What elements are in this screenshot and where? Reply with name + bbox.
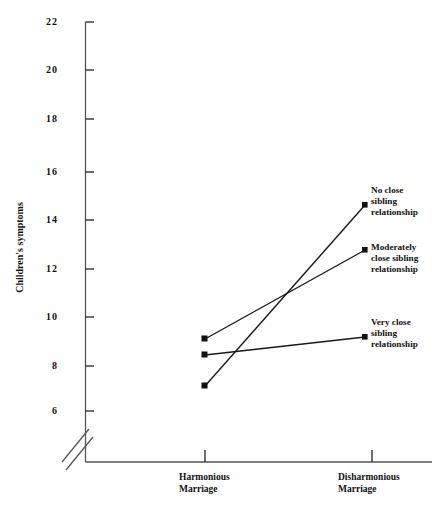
series-label-line2: close sibling xyxy=(371,253,418,263)
series-very-close-sibling xyxy=(202,334,368,358)
series-label-line3: relationship xyxy=(371,207,418,217)
series-label-line3: relationship xyxy=(371,339,418,349)
chart-figure: Children's symptoms 22 20 18 16 14 12 10… xyxy=(0,0,446,505)
axis-break-slash-1 xyxy=(66,437,93,470)
series-no-close-sibling xyxy=(202,202,368,389)
data-point-marker xyxy=(202,352,208,358)
data-point-marker xyxy=(362,334,368,340)
y-tick-label-14: 14 xyxy=(28,215,58,225)
series-label-line1: Moderately xyxy=(371,242,416,252)
data-point-marker xyxy=(202,383,208,389)
series-label-line1: Very close xyxy=(371,317,411,327)
series-label-moderately-close-sibling: Moderately close sibling relationship xyxy=(371,242,418,276)
y-tick-label-20: 20 xyxy=(28,65,58,75)
x-tick-label-harmonious-line2: Marriage xyxy=(179,484,218,494)
x-tick-label-harmonious-line1: Harmonious xyxy=(179,472,230,482)
x-tick-label-disharmonious-line2: Marriage xyxy=(338,484,377,494)
y-tick-label-10: 10 xyxy=(28,312,58,322)
y-tick-label-12: 12 xyxy=(28,264,58,274)
y-tick-label-6: 6 xyxy=(28,406,58,416)
x-tick-label-disharmonious-line1: Disharmonious xyxy=(338,472,400,482)
y-axis-title: Children's symptoms xyxy=(14,183,25,313)
x-tick-label-disharmonious: Disharmonious Marriage xyxy=(338,472,400,495)
x-axis-ticks xyxy=(205,450,372,462)
y-tick-label-22: 22 xyxy=(28,17,58,27)
y-axis-ticks xyxy=(86,22,95,411)
series-label-line1: No close xyxy=(371,185,403,195)
y-tick-label-16: 16 xyxy=(28,167,58,177)
data-point-marker xyxy=(202,336,208,342)
series-moderately-close-sibling xyxy=(202,247,368,342)
series-label-line3: relationship xyxy=(371,264,418,274)
data-point-marker xyxy=(362,247,368,253)
series-label-very-close-sibling: Very close sibling relationship xyxy=(371,317,418,351)
series-label-line2: sibling xyxy=(371,328,397,338)
y-tick-label-8: 8 xyxy=(28,361,58,371)
y-tick-label-18: 18 xyxy=(28,114,58,124)
series-label-no-close-sibling: No close sibling relationship xyxy=(371,185,418,219)
x-tick-label-harmonious: Harmonious Marriage xyxy=(179,472,230,495)
data-point-marker xyxy=(362,202,368,208)
series-label-line2: sibling xyxy=(371,196,397,206)
